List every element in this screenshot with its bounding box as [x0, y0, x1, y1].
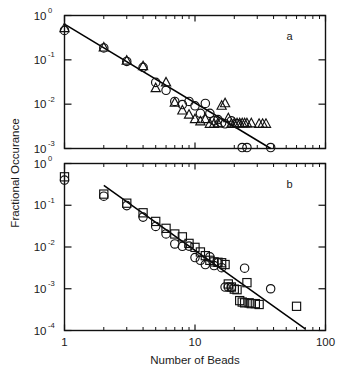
x-tick-label: 100	[316, 336, 335, 348]
panel-b-fit-line	[104, 185, 306, 328]
panel-a: a10010-110-210-3	[34, 6, 326, 155]
data-point-circle	[162, 86, 170, 94]
x-axis-title: Number of Beads	[150, 354, 240, 366]
y-tick-exponent: 0	[48, 6, 52, 15]
data-point-circle	[201, 99, 209, 107]
x-tick-label: 1	[61, 336, 67, 348]
series-squares	[60, 173, 300, 311]
data-point-square	[292, 302, 300, 310]
panel-a-letter: a	[286, 30, 293, 42]
data-point-square	[100, 190, 108, 198]
data-point-circle	[123, 201, 131, 209]
data-point-triangle	[220, 98, 229, 107]
data-point-circle	[162, 230, 170, 238]
x-tick-label: 10	[189, 336, 202, 348]
series-circles	[60, 26, 275, 151]
y-tick-label: 10	[34, 54, 47, 66]
y-tick-label: 10	[34, 98, 47, 110]
panel-b-letter: b	[286, 178, 292, 190]
data-point-circle	[100, 192, 108, 200]
y-tick-label: 10	[34, 325, 47, 337]
y-tick-exponent: -2	[48, 95, 55, 104]
data-point-circle	[152, 222, 160, 230]
data-point-circle	[240, 264, 248, 272]
y-tick-exponent: -4	[48, 321, 55, 330]
panel-b: b10010-110-210-310-4	[34, 154, 326, 337]
series-circles	[60, 176, 275, 293]
y-tick-exponent: -3	[48, 139, 55, 148]
series-triangles	[60, 23, 271, 127]
y-axis-title: Fractional Occurance	[9, 118, 21, 227]
y-tick-label: 10	[34, 241, 47, 253]
y-tick-label: 10	[34, 199, 47, 211]
scientific-figure: a10010-110-210-3b10010-110-210-310-41101…	[0, 0, 345, 375]
y-tick-label: 10	[34, 283, 47, 295]
y-tick-exponent: -1	[48, 50, 55, 59]
y-tick-exponent: -3	[48, 279, 55, 288]
data-point-circle	[266, 285, 274, 293]
y-tick-exponent: -2	[48, 238, 55, 247]
y-tick-label: 10	[34, 158, 47, 170]
y-tick-exponent: 0	[48, 154, 52, 163]
y-tick-label: 10	[34, 143, 47, 155]
y-tick-label: 10	[34, 10, 47, 22]
figure-container: a10010-110-210-3b10010-110-210-310-41101…	[0, 0, 345, 375]
y-tick-exponent: -1	[48, 196, 55, 205]
